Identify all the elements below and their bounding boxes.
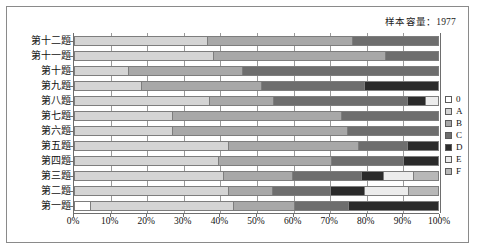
bar-row [74, 186, 439, 196]
chart-legend: 0ABCDEF [445, 93, 477, 177]
y-axis-label: 第九题 [9, 81, 71, 91]
legend-item[interactable]: C [445, 129, 477, 141]
bar-row [74, 111, 439, 121]
bar-segment-e [426, 96, 440, 106]
y-axis-label: 第一题 [9, 201, 71, 211]
x-axis-tick [256, 214, 257, 217]
bar-segment-a [74, 81, 142, 91]
bar-segment-a [74, 66, 129, 76]
bar-segment-c [348, 126, 439, 136]
bar-segment-c [332, 156, 404, 166]
y-axis-label: 第五题 [9, 141, 71, 151]
y-axis-label: 第十二题 [9, 36, 71, 46]
x-axis-tick [219, 214, 220, 217]
bar-segment-b [173, 111, 342, 121]
bar-segment-a [74, 126, 173, 136]
x-axis-tick [366, 214, 367, 217]
legend-label: A [456, 107, 463, 116]
bar-row [74, 156, 439, 166]
bar-segment-a [74, 96, 210, 106]
x-axis-label: 90% [394, 216, 411, 226]
x-axis-label: 100% [428, 216, 450, 226]
y-axis-label: 第七题 [9, 111, 71, 121]
y-axis-label: 第十一题 [9, 51, 71, 61]
legend-item[interactable]: F [445, 165, 477, 177]
legend-label: F [456, 167, 461, 176]
bar-row [74, 96, 439, 106]
bar-segment-a [74, 51, 214, 61]
bar-segment-a [74, 36, 208, 46]
bar-row [74, 201, 439, 211]
x-axis-tick [73, 214, 74, 217]
sample-size-caption: 样本容量：1977 [385, 14, 456, 28]
bar-segment-e [365, 186, 410, 196]
bar-segment-e [384, 171, 414, 181]
legend-label: C [456, 131, 462, 140]
bar-row [74, 51, 439, 61]
bar-row [74, 126, 439, 136]
y-axis-tick [70, 41, 73, 42]
y-axis-tick [70, 116, 73, 117]
x-axis-label: 30% [174, 216, 191, 226]
bar-segment-b [129, 66, 243, 76]
gridline [440, 33, 441, 213]
x-axis-label: 50% [247, 216, 264, 226]
y-axis-label: 第六题 [9, 126, 71, 136]
bar-segment-c [386, 51, 439, 61]
bar-segment-b [234, 201, 295, 211]
x-axis-tick [439, 214, 440, 217]
bar-segment-c [273, 186, 331, 196]
legend-item[interactable]: 0 [445, 93, 477, 105]
bar-segment-c [353, 36, 440, 46]
y-axis-tick [70, 56, 73, 57]
legend-item[interactable]: E [445, 153, 477, 165]
legend-label: B [456, 119, 462, 128]
bar-segment-b [229, 186, 273, 196]
legend-item[interactable]: D [445, 141, 477, 153]
bar-segment-d [331, 186, 365, 196]
legend-swatch-icon [445, 108, 452, 115]
bar-row [74, 171, 439, 181]
y-axis-tick [70, 206, 73, 207]
x-axis-label: 70% [320, 216, 337, 226]
y-axis-label: 第十题 [9, 66, 71, 76]
x-axis-label: 0% [67, 216, 80, 226]
chart-frame: 样本容量：1977 第十二题第十一题第十题第九题第八题第七题第六题第五题第四题第… [6, 6, 469, 243]
legend-swatch-icon [445, 168, 452, 175]
x-axis-label: 60% [284, 216, 301, 226]
y-axis-label: 第二题 [9, 186, 71, 196]
legend-swatch-icon [445, 144, 452, 151]
legend-item[interactable]: B [445, 117, 477, 129]
bar-segment-b [219, 156, 331, 166]
y-axis-tick [70, 176, 73, 177]
y-axis-label: 第八题 [9, 96, 71, 106]
legend-swatch-icon [445, 132, 452, 139]
legend-item[interactable]: A [445, 105, 477, 117]
y-axis-label: 第四题 [9, 156, 71, 166]
x-axis-tick [183, 214, 184, 217]
x-axis-label: 20% [137, 216, 154, 226]
y-axis-tick [70, 71, 73, 72]
bar-segment-b [224, 171, 293, 181]
x-axis-labels: 0%10%20%30%40%50%60%70%80%90%100% [73, 216, 439, 232]
bar-segment-b [208, 36, 352, 46]
x-axis-label: 80% [357, 216, 374, 226]
bar-segment-d [408, 141, 439, 151]
legend-label: 0 [456, 95, 461, 104]
legend-label: D [456, 143, 463, 152]
y-axis-label: 第三题 [9, 171, 71, 181]
legend-swatch-icon [445, 156, 452, 163]
bar-segment-b [214, 51, 386, 61]
bar-segment-b [173, 126, 348, 136]
bar-row [74, 66, 439, 76]
x-axis-label: 10% [101, 216, 118, 226]
legend-label: E [456, 155, 462, 164]
y-axis-labels: 第十二题第十一题第十题第九题第八题第七题第六题第五题第四题第三题第二题第一题 [7, 33, 71, 214]
bar-segment-c [342, 111, 439, 121]
bar-segment-d [404, 156, 439, 166]
y-axis-tick [70, 191, 73, 192]
legend-swatch-icon [445, 120, 452, 127]
bar-segment-d [362, 171, 384, 181]
x-axis-tick [110, 214, 111, 217]
x-axis-tick [329, 214, 330, 217]
